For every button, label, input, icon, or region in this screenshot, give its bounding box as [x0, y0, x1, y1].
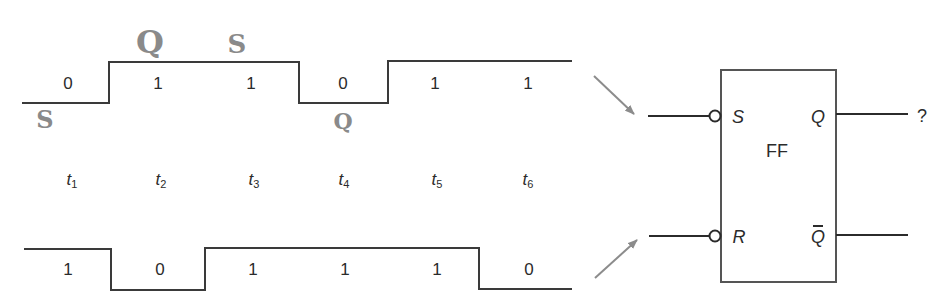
time-label-t5: t5	[432, 171, 443, 190]
s-value-t1: 0	[63, 75, 72, 92]
ff-q-pin-label: Q	[811, 108, 825, 126]
time-label-t3: t3	[249, 171, 260, 190]
s-inversion-bubble-icon	[710, 111, 721, 122]
ff-set-pin-label: S	[732, 108, 744, 126]
r-value-t3: 1	[248, 261, 257, 278]
ff-name-label: FF	[766, 142, 788, 160]
r-value-t6: 0	[524, 261, 533, 278]
q-output-unknown: ?	[917, 107, 927, 125]
s-value-t6: 1	[523, 75, 532, 92]
handwritten-s-annotation-left: S	[36, 105, 53, 134]
ff-reset-pin-label: R	[733, 228, 746, 246]
r-value-t2: 0	[155, 261, 164, 278]
s-input-waveform	[22, 61, 572, 103]
handwritten-q-annotation-mid: Q	[333, 108, 352, 134]
r-value-t1: 1	[63, 261, 72, 278]
time-label-t1: t1	[67, 171, 78, 190]
s-value-t5: 1	[430, 75, 439, 92]
diagram-canvas: 0 1 1 0 1 1 t1 t2 t3 t4 t5 t6 1 0 1 1 1 …	[0, 0, 944, 304]
flip-flop-box	[721, 70, 836, 282]
time-label-t4: t4	[339, 171, 350, 190]
r-input-waveform	[24, 248, 572, 290]
s-value-t3: 1	[246, 75, 255, 92]
ff-q-bar-pin-label: Q	[811, 228, 825, 246]
time-label-t2: t2	[156, 171, 167, 190]
handwritten-s-annotation: S	[228, 29, 247, 59]
handwritten-q-annotation: Q	[136, 23, 164, 61]
s-value-t4: 0	[338, 75, 347, 92]
r-arrow-icon	[595, 240, 637, 278]
r-inversion-bubble-icon	[710, 231, 721, 242]
s-arrow-icon	[594, 76, 634, 114]
r-value-t4: 1	[340, 261, 349, 278]
s-value-t2: 1	[153, 75, 162, 92]
r-value-t5: 1	[432, 261, 441, 278]
time-label-t6: t6	[523, 171, 534, 190]
